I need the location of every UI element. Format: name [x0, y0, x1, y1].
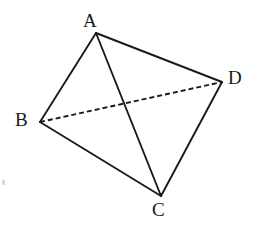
edge-BC — [40, 122, 161, 196]
tetrahedron-figure: A B C D — [0, 0, 260, 244]
vertex-label-d: D — [228, 68, 242, 87]
edges-group — [40, 33, 222, 196]
scan-artifacts-group — [2, 180, 5, 185]
vertex-label-c: C — [152, 200, 165, 219]
vertex-label-a: A — [83, 11, 97, 30]
tetrahedron-drawing — [0, 0, 260, 244]
vertex-label-b: B — [15, 110, 28, 129]
edge-CD — [161, 82, 222, 196]
edge-AD — [96, 33, 222, 82]
edge-BD-hidden — [40, 82, 222, 122]
scan-speck — [2, 180, 5, 185]
edge-AB — [40, 33, 96, 122]
edge-AC — [96, 33, 161, 196]
